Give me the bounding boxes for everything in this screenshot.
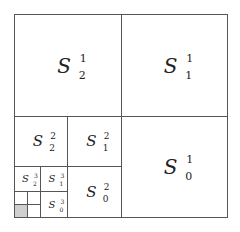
cell-s2-2: S22 [14, 116, 68, 167]
label-s2-0: S20 [86, 185, 102, 200]
cell-s2-1: S21 [67, 116, 122, 167]
label-s1-2: S12 [57, 56, 79, 76]
label-s2-1: S21 [86, 134, 102, 149]
cell-s3-0: S30 [40, 191, 68, 218]
label-s3-2: S32 [22, 174, 33, 184]
cell-s1-2: S12 [14, 14, 122, 117]
quadrant-subdivision-diagram: S12 S11 S10 S22 S21 S20 S32 S31 S30 [0, 0, 240, 232]
cell-s4-bottom-right [27, 204, 41, 218]
label-s1-0: S10 [164, 157, 186, 177]
cell-s4-shaded [14, 204, 28, 218]
cell-s3-2: S32 [14, 166, 41, 192]
cell-s4-top-left [14, 191, 28, 205]
label-s3-0: S30 [49, 200, 60, 210]
cell-s3-1: S31 [40, 166, 68, 192]
label-s2-2: S22 [33, 134, 49, 149]
cell-s1-1: S11 [121, 14, 228, 117]
label-s1-1: S11 [164, 56, 186, 76]
label-s3-1: S31 [49, 174, 60, 184]
cell-s2-0: S20 [67, 166, 122, 218]
cell-s1-0: S10 [121, 116, 228, 218]
cell-s4-top-right [27, 191, 41, 205]
